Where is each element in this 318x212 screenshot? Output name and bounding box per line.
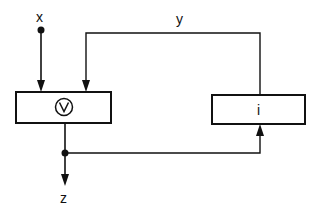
- input-label-x: x: [36, 9, 43, 25]
- input-arrow: [37, 30, 45, 92]
- i-block-label: i: [257, 102, 260, 118]
- block-diagram: x y i z: [0, 0, 318, 212]
- or-block: [16, 92, 111, 123]
- feedback-label-y: y: [176, 11, 183, 27]
- feedback-line-y: [82, 33, 260, 95]
- output-label-z: z: [60, 190, 67, 206]
- junction-to-i-block-line: [65, 124, 264, 153]
- i-block: i: [212, 95, 305, 124]
